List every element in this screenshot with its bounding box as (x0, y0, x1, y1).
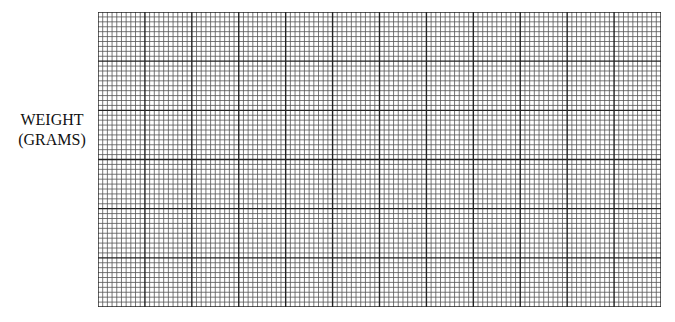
y-axis-label-line-1: WEIGHT (12, 110, 92, 130)
y-axis-label-line-2: (GRAMS) (12, 130, 92, 150)
graph-paper-plot-area (98, 12, 661, 307)
grid-lines (98, 12, 661, 307)
y-axis-label: WEIGHT (GRAMS) (12, 110, 92, 150)
